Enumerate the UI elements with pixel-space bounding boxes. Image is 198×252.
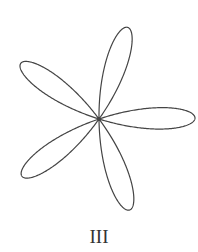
five-petal-rose-curve <box>20 27 195 210</box>
rose-curve-figure <box>0 0 198 252</box>
figure-caption: III <box>0 226 198 248</box>
